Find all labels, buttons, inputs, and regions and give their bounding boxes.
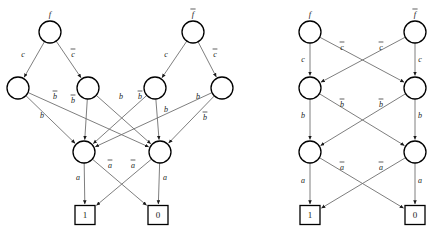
bdd-edge bbox=[162, 41, 187, 78]
bdd-node bbox=[404, 21, 426, 43]
terminal-value: 1 bbox=[83, 210, 88, 220]
literal-label: f bbox=[414, 9, 418, 19]
bdd-node bbox=[404, 77, 426, 99]
bdd-edge bbox=[319, 94, 404, 146]
bdd-edge bbox=[322, 158, 406, 208]
bdd-edge bbox=[319, 158, 403, 208]
bdd-edge bbox=[96, 95, 150, 143]
literal-label: b bbox=[340, 100, 344, 109]
literal-label: f bbox=[192, 9, 196, 19]
literal-label: c bbox=[213, 50, 217, 59]
bdd-figure: ccccbbbbbbbbaaaaff10ccccbbbbaaaaff10 bbox=[0, 0, 431, 231]
bdd-node bbox=[77, 77, 99, 99]
literal-label: b bbox=[40, 111, 44, 120]
bdd-edge bbox=[198, 42, 216, 77]
literal-label: b bbox=[418, 111, 422, 120]
literal-label: a bbox=[131, 161, 135, 170]
bdd-node bbox=[182, 21, 204, 43]
bdd-edge bbox=[320, 37, 404, 82]
literal-label: a bbox=[76, 173, 80, 182]
bdd-edge bbox=[95, 93, 212, 147]
literal-label: c bbox=[21, 50, 25, 59]
bdd-edge bbox=[321, 94, 406, 146]
bdd-edge bbox=[156, 99, 159, 140]
literal-label: b bbox=[138, 92, 142, 101]
literal-label: a bbox=[379, 163, 383, 172]
bdd-edge bbox=[321, 37, 405, 82]
bdd-edge bbox=[24, 42, 44, 78]
bdd-node bbox=[299, 141, 321, 163]
literal-label: b bbox=[71, 96, 75, 105]
literal-label: a bbox=[163, 173, 167, 182]
bdd-node bbox=[404, 141, 426, 163]
bdd-edge bbox=[97, 159, 152, 205]
literal-label: b bbox=[301, 111, 305, 120]
bdd-canvas: ccccbbbbbbbbaaaaff10ccccbbbbaaaaff10 bbox=[0, 0, 431, 231]
literal-label: b bbox=[203, 113, 207, 122]
literal-label: f bbox=[49, 9, 53, 19]
bdd-node bbox=[144, 77, 166, 99]
literal-label: b bbox=[164, 105, 168, 114]
literal-label: b bbox=[119, 92, 123, 101]
bdd-node bbox=[149, 141, 171, 163]
bdd-node bbox=[73, 141, 95, 163]
literal-label: b bbox=[196, 92, 200, 101]
literal-label: b bbox=[53, 92, 57, 101]
bdd-node bbox=[7, 77, 29, 99]
bdd-node bbox=[211, 77, 233, 99]
bdd-edge bbox=[92, 159, 146, 205]
literal-label: a bbox=[301, 176, 305, 185]
literal-label: c bbox=[164, 50, 168, 59]
literal-label: a bbox=[108, 161, 112, 170]
bdd-node bbox=[299, 77, 321, 99]
terminal-value: 1 bbox=[308, 210, 313, 220]
terminal-value: 0 bbox=[413, 210, 418, 220]
literal-label: c bbox=[340, 43, 344, 52]
literal-label: c bbox=[418, 55, 422, 64]
literal-label: b bbox=[379, 100, 383, 109]
bdd-node bbox=[39, 21, 61, 43]
edges-layer bbox=[24, 37, 415, 208]
bdd-node bbox=[299, 21, 321, 43]
terminal-value: 0 bbox=[156, 210, 161, 220]
literal-label: c bbox=[71, 50, 75, 59]
literal-label: c bbox=[379, 43, 383, 52]
bdd-edge bbox=[28, 93, 149, 147]
labels-layer: ccccbbbbbbbbaaaaff10ccccbbbbaaaaff10 bbox=[21, 9, 422, 220]
literal-label: f bbox=[309, 9, 313, 19]
bdd-edge bbox=[158, 163, 159, 204]
literal-label: a bbox=[340, 163, 344, 172]
literal-label: a bbox=[418, 176, 422, 185]
bdd-edge bbox=[56, 41, 81, 78]
bdd-edge bbox=[84, 163, 85, 204]
literal-label: c bbox=[301, 55, 305, 64]
bdd-edge bbox=[93, 95, 147, 143]
bdd-edge bbox=[169, 96, 215, 143]
